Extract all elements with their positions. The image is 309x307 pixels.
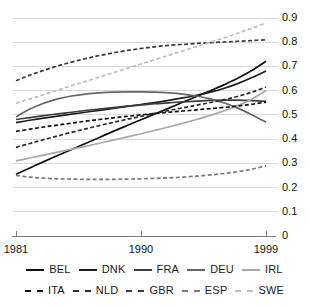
y-axis-tick-label: 0 (282, 230, 288, 241)
legend-item-fra[interactable]: FRA (134, 264, 180, 275)
legend-label: SWE (258, 285, 284, 296)
legend-item-deu[interactable]: DEU (187, 264, 234, 275)
y-axis-tick-label: 0.8 (282, 36, 297, 47)
series-line-esp (16, 166, 266, 180)
legend-item-nld[interactable]: NLD (73, 285, 119, 296)
legend-swatch-dashed-icon (25, 290, 43, 292)
y-axis-tick-label: 0.1 (282, 206, 297, 217)
series-line-irl (16, 91, 266, 161)
line-chart: 00.10.20.30.40.50.60.70.80.9 19811990199… (0, 0, 309, 307)
series-line-bel (16, 61, 266, 174)
legend-label: BEL (49, 264, 70, 275)
x-axis-tick-label: 1981 (2, 244, 30, 255)
legend-item-swe[interactable]: SWE (235, 285, 284, 296)
legend-item-bel[interactable]: BEL (26, 264, 70, 275)
legend-swatch-solid-icon (242, 269, 260, 271)
series-line-gbr (16, 40, 266, 81)
legend-item-ita[interactable]: ITA (25, 285, 65, 296)
legend-item-dnk[interactable]: DNK (79, 264, 126, 275)
x-axis (12, 231, 276, 236)
y-axis-tick-label: 0.6 (282, 85, 297, 96)
plot-svg (0, 0, 309, 250)
legend-label: GBR (149, 285, 173, 296)
legend-swatch-solid-icon (79, 269, 97, 271)
legend-swatch-dashed-icon (182, 290, 200, 292)
legend-item-irl[interactable]: IRL (242, 264, 283, 275)
y-axis-tick-label: 0.9 (282, 12, 297, 23)
chart-legend: BELDNKFRADEUIRL ITANLDGBRESPSWE (0, 259, 309, 307)
y-axis-tick-label: 0.5 (282, 109, 297, 120)
legend-row-dashed: ITANLDGBRESPSWE (0, 280, 309, 301)
series-lines (16, 23, 266, 179)
y-axis-tick-label: 0.7 (282, 60, 297, 71)
y-axis-tick-label: 0.3 (282, 157, 297, 168)
legend-swatch-solid-icon (134, 269, 152, 271)
legend-label: ITA (48, 285, 65, 296)
plot-area (0, 0, 309, 250)
y-axis-tick-label: 0.4 (282, 133, 297, 144)
legend-swatch-dashed-icon (235, 290, 253, 292)
legend-label: FRA (157, 264, 180, 275)
legend-label: IRL (265, 264, 283, 275)
y-axis-tick-label: 0.2 (282, 182, 297, 193)
legend-item-gbr[interactable]: GBR (126, 285, 173, 296)
legend-label: DNK (102, 264, 126, 275)
legend-label: DEU (210, 264, 234, 275)
legend-swatch-dashed-icon (126, 290, 144, 292)
x-axis-tick-label: 1999 (252, 244, 280, 255)
legend-swatch-dashed-icon (73, 290, 91, 292)
legend-row-solid: BELDNKFRADEUIRL (0, 259, 309, 280)
legend-swatch-solid-icon (26, 269, 44, 271)
legend-label: NLD (96, 285, 119, 296)
legend-swatch-solid-icon (187, 269, 205, 271)
legend-label: ESP (205, 285, 228, 296)
x-axis-tick-label: 1990 (127, 244, 155, 255)
legend-item-esp[interactable]: ESP (182, 285, 228, 296)
